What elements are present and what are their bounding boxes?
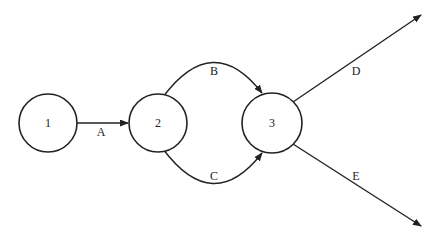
node-3: 3 [242, 93, 302, 153]
node-1: 1 [19, 94, 77, 152]
node-1-label: 1 [45, 116, 51, 130]
edge-b: B [163, 62, 262, 97]
edge-a: A [77, 123, 128, 139]
edge-e: E [293, 144, 421, 226]
edge-e-arrow [293, 144, 421, 226]
network-diagram: A B C D E 1 2 3 [0, 0, 443, 236]
edge-d-label: D [352, 64, 361, 78]
edge-d: D [293, 15, 421, 102]
edge-e-label: E [352, 169, 359, 183]
edge-c-label: C [210, 169, 218, 183]
edge-d-arrow [293, 15, 421, 102]
node-2: 2 [129, 94, 187, 152]
edge-a-label: A [97, 125, 106, 139]
node-3-label: 3 [269, 116, 275, 130]
node-2-label: 2 [155, 116, 161, 130]
edge-b-label: B [210, 64, 218, 78]
edge-c: C [163, 149, 262, 184]
